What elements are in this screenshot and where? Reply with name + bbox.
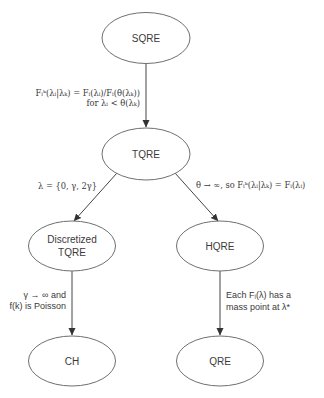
- edge-tqre-to-discretized-tqre: λ = {0, γ, 2γ}: [38, 173, 117, 221]
- node-label: HQRE: [206, 241, 235, 252]
- flow-diagram: Fᵢᵏ(λᵢ|λₖ) = Fᵢ(λᵢ)/Fᵢ(θ(λₖ)) for λᵢ < θ…: [0, 0, 324, 398]
- edge-hqre-to-qre: Each Fᵢ(λ) has a mass point at λ*: [220, 271, 291, 335]
- node-qre: QRE: [177, 336, 264, 386]
- node-label: SQRE: [132, 33, 161, 44]
- edge-label: γ → ∞ and: [24, 290, 66, 300]
- edge-label: f(k) is Poisson: [9, 301, 66, 311]
- node-tqre: TQRE: [102, 128, 190, 180]
- node-sqre: SQRE: [102, 13, 190, 64]
- node-label: TQRE: [58, 247, 86, 258]
- edge-label: λ = {0, γ, 2γ}: [38, 181, 97, 191]
- node-ch: CH: [29, 336, 116, 386]
- edge-tqre-to-hqre: θ → ∞, so Fᵢᵏ(λᵢ|λₖ) = Fᵢ(λᵢ): [175, 173, 305, 221]
- edge-sqre-to-tqre: Fᵢᵏ(λᵢ|λₖ) = Fᵢ(λᵢ)/Fᵢ(θ(λₖ)) for λᵢ < θ…: [36, 63, 146, 127]
- edge-label: for λᵢ < θ(λₖ): [86, 98, 140, 108]
- edge-label: Each Fᵢ(λ) has a: [226, 290, 291, 300]
- edge-label: θ → ∞, so Fᵢᵏ(λᵢ|λₖ) = Fᵢ(λᵢ): [196, 180, 305, 191]
- node-label: Discretized: [47, 234, 96, 245]
- edge-discretized-tqre-to-ch: γ → ∞ and f(k) is Poisson: [9, 271, 72, 335]
- node-label: CH: [65, 356, 79, 367]
- edge-label: mass point at λ*: [226, 302, 291, 312]
- node-discretized-tqre: Discretized TQRE: [29, 221, 116, 271]
- node-hqre: HQRE: [177, 221, 264, 271]
- node-ellipse: [29, 221, 116, 271]
- node-label: QRE: [209, 356, 231, 367]
- node-label: TQRE: [132, 149, 160, 160]
